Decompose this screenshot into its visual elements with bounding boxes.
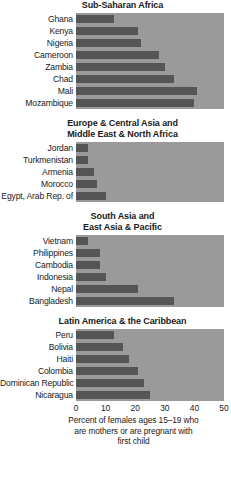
bar: [76, 27, 138, 35]
category-label: Egypt, Arab Rep. of: [0, 190, 76, 202]
bar-row: Peru: [0, 329, 231, 341]
x-axis-caption: Percent of females ages 15–19 who are mo…: [0, 415, 231, 447]
bar-track: [76, 389, 224, 401]
chart-panel-sub-saharan-africa: Sub-Saharan Africa Ghana Kenya Nigeria C…: [0, 0, 231, 109]
bar-track: [76, 271, 224, 283]
bar: [76, 168, 94, 176]
bar-track: [76, 13, 224, 25]
bar-track: [76, 97, 224, 109]
x-tick-label: 40: [190, 403, 199, 413]
bar: [76, 144, 88, 152]
bar: [76, 355, 129, 363]
bar-row: Mozambique: [0, 97, 231, 109]
category-label: Zambia: [0, 61, 76, 73]
bar-row: Zambia: [0, 61, 231, 73]
bar-track: [76, 49, 224, 61]
bar-track: [76, 329, 224, 341]
bar-row: Chad: [0, 73, 231, 85]
category-label: Colombia: [0, 365, 76, 377]
bar-track: [76, 85, 224, 97]
bar-track: [76, 341, 224, 353]
category-label: Nigeria: [0, 37, 76, 49]
category-label: Bolivia: [0, 341, 76, 353]
bar: [76, 367, 138, 375]
x-axis-caption-line: Percent of females ages 15–19 who: [40, 415, 227, 426]
x-axis-caption-line: are mothers or are pregnant with: [40, 426, 227, 437]
x-tick-label: 30: [160, 403, 169, 413]
category-label: Peru: [0, 329, 76, 341]
panel-plot-area: Jordan Turkmenistan Armenia Morocco Egyp…: [0, 142, 231, 202]
bar-track: [76, 377, 224, 389]
bar-row: Nicaragua: [0, 389, 231, 401]
bar-track: [76, 190, 224, 202]
x-axis: 01020304050: [76, 401, 224, 415]
bar-track: [76, 61, 224, 73]
bar: [76, 51, 159, 59]
x-tick-label: 10: [101, 403, 110, 413]
bar-row: Colombia: [0, 365, 231, 377]
bar-row: Nepal: [0, 283, 231, 295]
category-label: Morocco: [0, 178, 76, 190]
bar-row: Nigeria: [0, 37, 231, 49]
category-label: Cameroon: [0, 49, 76, 61]
bar: [76, 261, 100, 269]
category-label: Cambodia: [0, 259, 76, 271]
panel-title: Europe & Central Asia and Middle East & …: [0, 118, 231, 142]
bar-track: [76, 235, 224, 247]
chart-panel-europe-central-asia-mena: Europe & Central Asia and Middle East & …: [0, 118, 231, 202]
bar-track: [76, 166, 224, 178]
bar-track: [76, 154, 224, 166]
bar: [76, 273, 106, 281]
bar-row: Mali: [0, 85, 231, 97]
bar-track: [76, 142, 224, 154]
bar-row: Egypt, Arab Rep. of: [0, 190, 231, 202]
category-label: Bangladesh: [0, 295, 76, 307]
bar-track: [76, 247, 224, 259]
x-tick-label: 20: [131, 403, 140, 413]
category-label: Philippines: [0, 247, 76, 259]
panel-title: South Asia and East Asia & Pacific: [0, 211, 231, 235]
bar: [76, 297, 174, 305]
bar-track: [76, 283, 224, 295]
category-label: Kenya: [0, 25, 76, 37]
bar-track: [76, 365, 224, 377]
bar: [76, 343, 123, 351]
bar: [76, 331, 114, 339]
bar-track: [76, 295, 224, 307]
category-label: Chad: [0, 73, 76, 85]
bar: [76, 249, 100, 257]
bar: [76, 87, 197, 95]
bar-row: Philippines: [0, 247, 231, 259]
bar: [76, 63, 165, 71]
bar: [76, 99, 194, 107]
category-label: Armenia: [0, 166, 76, 178]
panel-plot-area: Peru Bolivia Haiti Colombia Dominican Re…: [0, 329, 231, 401]
bar-row: Ghana: [0, 13, 231, 25]
bar: [76, 192, 106, 200]
bar: [76, 15, 114, 23]
teen-motherhood-bar-chart-figure: Sub-Saharan Africa Ghana Kenya Nigeria C…: [0, 0, 231, 502]
x-axis-caption-line: first child: [40, 436, 227, 447]
bar: [76, 285, 138, 293]
bar-row: Vietnam: [0, 235, 231, 247]
bar-track: [76, 73, 224, 85]
category-label: Ghana: [0, 13, 76, 25]
panel-gap: [0, 109, 231, 118]
bar-track: [76, 25, 224, 37]
bar: [76, 379, 144, 387]
bar-row: Morocco: [0, 178, 231, 190]
bar: [76, 391, 150, 399]
category-label: Turkmenistan: [0, 154, 76, 166]
category-label: Nicaragua: [0, 389, 76, 401]
bar-track: [76, 259, 224, 271]
x-tick-label: 0: [74, 403, 79, 413]
bar-row: Cameroon: [0, 49, 231, 61]
bar: [76, 237, 88, 245]
panel-title: Latin America & the Caribbean: [0, 316, 231, 329]
bar-row: Dominican Republic: [0, 377, 231, 389]
bar-row: Armenia: [0, 166, 231, 178]
bar-row: Cambodia: [0, 259, 231, 271]
bar-row: Kenya: [0, 25, 231, 37]
bar-track: [76, 37, 224, 49]
category-label: Vietnam: [0, 235, 76, 247]
